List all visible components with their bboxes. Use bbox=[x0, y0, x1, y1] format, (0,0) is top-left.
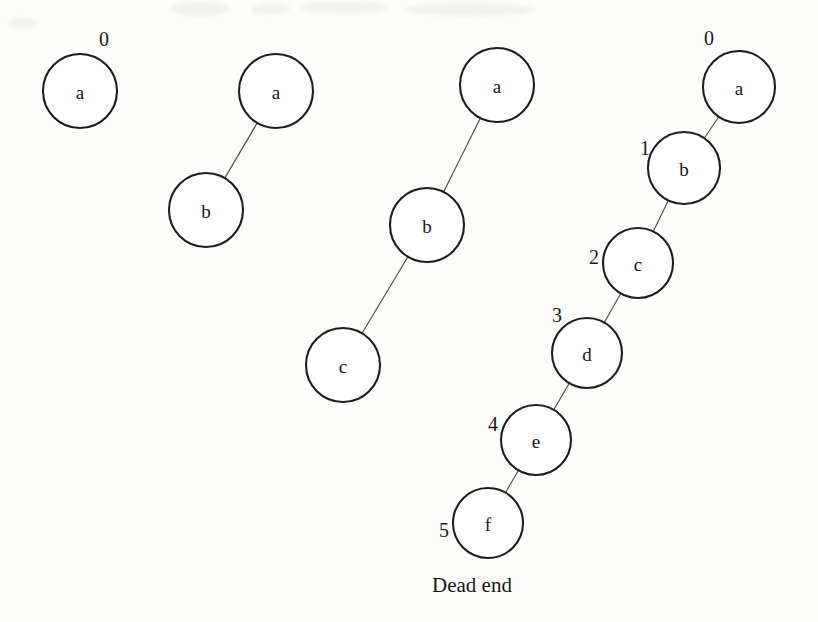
tree-node-t4-c[interactable]: c bbox=[603, 228, 673, 298]
step-number-t4-d: 3 bbox=[552, 304, 562, 326]
node-label-t3-a: a bbox=[493, 76, 502, 97]
step-number-t4-a: 0 bbox=[704, 27, 714, 49]
tree-edge-t4-e-to-t4-f bbox=[506, 470, 519, 492]
edges-layer bbox=[225, 117, 719, 493]
tree-node-t4-a[interactable]: a bbox=[703, 51, 775, 123]
tree-node-t4-f[interactable]: f bbox=[453, 488, 523, 558]
tree-node-t3-b[interactable]: b bbox=[390, 188, 464, 262]
tree-edge-t3-b-to-t3-c bbox=[362, 257, 408, 334]
step-number-t4-e: 4 bbox=[488, 413, 498, 435]
tree-node-t1-a[interactable]: a bbox=[43, 54, 117, 128]
search-tree-figure: aababcabcdef 0012345 Dead end bbox=[0, 0, 818, 622]
node-label-t4-a: a bbox=[735, 78, 744, 99]
step-number-t4-f: 5 bbox=[439, 519, 449, 541]
tree-node-t2-a[interactable]: a bbox=[239, 54, 313, 128]
node-label-t2-b: b bbox=[201, 201, 211, 222]
tree-node-t4-d[interactable]: d bbox=[552, 318, 622, 388]
node-label-t1-a: a bbox=[76, 82, 85, 103]
tree-edge-t3-a-to-t3-b bbox=[444, 118, 481, 192]
node-label-t4-d: d bbox=[582, 344, 592, 365]
tree-node-t4-b[interactable]: b bbox=[648, 132, 720, 204]
tree-node-t3-a[interactable]: a bbox=[460, 48, 534, 122]
tree-edge-t4-b-to-t4-c bbox=[653, 200, 668, 231]
step-number-t4-c: 2 bbox=[589, 246, 599, 268]
nodes-layer: aababcabcdef bbox=[43, 48, 775, 558]
tree-node-t3-c[interactable]: c bbox=[306, 328, 380, 402]
tree-node-t2-b[interactable]: b bbox=[169, 173, 243, 247]
node-label-t4-f: f bbox=[485, 514, 492, 535]
tree-edge-t4-d-to-t4-e bbox=[554, 383, 570, 410]
tree-node-t4-e[interactable]: e bbox=[501, 405, 571, 475]
node-label-t2-a: a bbox=[272, 82, 281, 103]
node-label-t3-b: b bbox=[422, 216, 432, 237]
node-label-t4-b: b bbox=[679, 159, 689, 180]
node-label-t4-c: c bbox=[634, 254, 642, 275]
node-label-t3-c: c bbox=[339, 356, 347, 377]
tree-edge-t4-a-to-t4-b bbox=[704, 117, 719, 138]
node-label-t4-e: e bbox=[532, 431, 540, 452]
tree-edge-t4-c-to-t4-d bbox=[604, 293, 620, 322]
tree-edge-t2-a-to-t2-b bbox=[225, 123, 257, 178]
step-number-t4-b: 1 bbox=[640, 137, 650, 159]
diagram-canvas: aababcabcdef 0012345 Dead end bbox=[0, 0, 818, 622]
figure-caption: Dead end bbox=[432, 573, 512, 597]
step-number-t1-a: 0 bbox=[99, 28, 109, 50]
